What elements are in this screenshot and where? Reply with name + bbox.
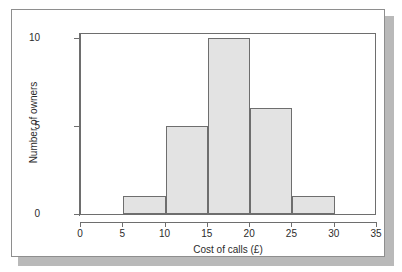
y-axis-tick bbox=[74, 38, 79, 39]
x-axis-tick bbox=[376, 222, 377, 227]
plot-area bbox=[81, 34, 375, 214]
x-axis-tick bbox=[291, 222, 292, 227]
y-axis-tick bbox=[74, 214, 79, 215]
x-axis-tick-label: 35 bbox=[356, 229, 396, 239]
histogram-bar bbox=[166, 126, 208, 214]
x-axis-tick-label: 5 bbox=[102, 229, 142, 239]
x-axis-tick-label: 10 bbox=[145, 229, 185, 239]
histogram-bar bbox=[292, 196, 334, 214]
histogram-bar bbox=[250, 108, 292, 214]
x-axis-title: Cost of calls (£) bbox=[80, 244, 376, 255]
x-axis-tick bbox=[122, 222, 123, 227]
x-axis-tick-label: 15 bbox=[187, 229, 227, 239]
figure-card: 0510 05101520253035 Cost of calls (£) Nu… bbox=[11, 9, 385, 257]
x-axis-tick bbox=[334, 222, 335, 227]
histogram-bar bbox=[208, 38, 250, 214]
x-axis-tick bbox=[207, 222, 208, 227]
y-axis-tick-label: 0 bbox=[0, 209, 40, 219]
x-axis-line bbox=[80, 222, 376, 223]
y-axis-line bbox=[79, 33, 80, 216]
x-axis-tick-label: 20 bbox=[229, 229, 269, 239]
x-axis-tick bbox=[80, 222, 81, 227]
x-axis-tick-label: 0 bbox=[60, 229, 100, 239]
y-axis-tick bbox=[74, 126, 79, 127]
plot-frame bbox=[80, 33, 376, 215]
x-axis-tick-label: 30 bbox=[314, 229, 354, 239]
x-axis-tick-label: 25 bbox=[271, 229, 311, 239]
y-axis-title: Number of owners bbox=[28, 58, 39, 188]
x-axis-tick bbox=[249, 222, 250, 227]
histogram-bar bbox=[123, 196, 165, 214]
x-axis-tick bbox=[165, 222, 166, 227]
y-axis-tick-label: 10 bbox=[0, 33, 40, 43]
